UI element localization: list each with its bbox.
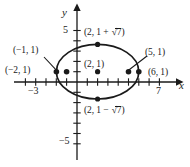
x-axis-label: x	[179, 80, 184, 91]
coordinate-plane-graphic	[0, 0, 190, 167]
label-center: (2, 1)	[84, 60, 104, 70]
x-tick-label-neg3: −3	[28, 86, 38, 96]
y-axis-label: y	[62, 7, 67, 18]
label-vertex-bottom: (2, 1 − √7)	[84, 106, 125, 116]
point-vertex-bottom	[95, 96, 100, 101]
point-vertex-right	[136, 69, 142, 75]
label-vertex-top-prefix: (2, 1 +	[84, 27, 111, 37]
label-vertex-right: (6, 1)	[148, 68, 168, 78]
label-focus-left: (−1, 1)	[13, 46, 38, 56]
y-tick-label-neg5: −5	[59, 136, 69, 146]
y-tick-label-5: 5	[63, 25, 68, 35]
x-tick-label-7: 7	[156, 86, 161, 96]
label-vertex-bottom-prefix: (2, 1 −	[84, 105, 111, 115]
point-vertex-top	[95, 42, 100, 47]
point-focus-right	[126, 69, 132, 75]
ellipse-figure: y x 5 −5 −3 7 (2, 1 + √7) (2, 1 − √7) (−…	[0, 0, 190, 167]
label-vertex-left: (−2, 1)	[5, 66, 30, 76]
leader-line-left-focus	[44, 57, 56, 70]
label-vertex-top: (2, 1 + √7)	[84, 28, 125, 38]
point-vertex-left	[54, 69, 60, 75]
label-vertex-top-radicand: 7	[117, 27, 122, 37]
sqrt-icon: √7	[111, 105, 122, 115]
label-vertex-bottom-radicand: 7	[117, 105, 122, 115]
sqrt-icon: √7	[111, 27, 122, 37]
point-focus-left	[64, 69, 70, 75]
point-center	[95, 69, 100, 74]
label-focus-right: (5, 1)	[145, 48, 165, 58]
